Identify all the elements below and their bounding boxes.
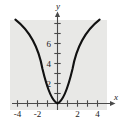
y-tick-label-4: 4 — [47, 59, 52, 69]
y-tick-label-6: 6 — [47, 39, 52, 49]
graph-figure: -4 -2 2 4 2 4 6 x y — [0, 0, 121, 125]
y-axis-arrowhead — [55, 12, 60, 18]
x-tick-label-neg2: -2 — [34, 109, 42, 119]
x-tick-label-pos4: 4 — [95, 109, 100, 119]
x-tick-label-pos2: 2 — [75, 109, 80, 119]
parabola-plot: -4 -2 2 4 2 4 6 x y — [0, 0, 121, 125]
x-axis-label: x — [113, 92, 118, 102]
y-tick-label-2: 2 — [47, 79, 52, 89]
y-axis-label: y — [55, 1, 60, 11]
x-tick-label-neg4: -4 — [14, 109, 22, 119]
